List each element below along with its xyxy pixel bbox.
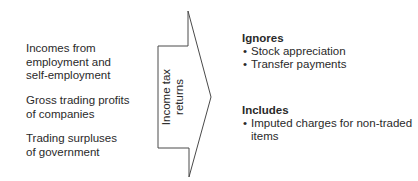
list-item-text: Stock appreciation xyxy=(251,45,346,57)
arrow-shape xyxy=(0,0,418,181)
arrow-label-line: Income tax xyxy=(160,46,173,148)
bullet-icon: • xyxy=(243,58,247,71)
ignores-heading: Ignores xyxy=(242,32,346,45)
list-item: • Imputed charges for non-traded items xyxy=(242,117,412,143)
includes-list: • Imputed charges for non-traded items xyxy=(242,117,412,143)
includes-heading: Includes xyxy=(242,104,412,117)
bullet-icon: • xyxy=(243,117,247,130)
list-item-text: Transfer payments xyxy=(251,58,346,70)
list-item-text: Imputed charges for non-traded xyxy=(251,117,412,130)
list-item: • Transfer payments xyxy=(242,58,346,71)
list-item: • Stock appreciation xyxy=(242,45,346,58)
bullet-icon: • xyxy=(243,45,247,58)
ignores-section: Ignores • Stock appreciation • Transfer … xyxy=(242,32,346,71)
arrow-label: Income tax returns xyxy=(160,46,190,148)
arrow-label-line: returns xyxy=(173,46,186,148)
includes-section: Includes • Imputed charges for non-trade… xyxy=(242,104,412,143)
ignores-list: • Stock appreciation • Transfer payments xyxy=(242,45,346,71)
list-item-text: items xyxy=(251,130,412,143)
